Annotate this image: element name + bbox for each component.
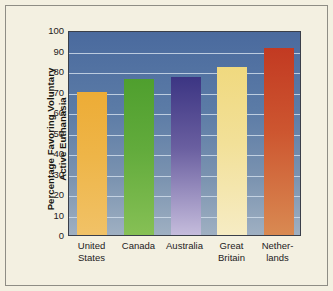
y-tick-label: 80 [38,67,64,77]
y-tick-label: 30 [38,170,64,180]
x-tick-label: United States [68,240,115,264]
y-tick-label: 60 [38,108,64,118]
y-tick-label: 90 [38,47,64,57]
bar-canada [124,79,154,235]
bar-australia [171,77,201,235]
y-tick-label: 100 [38,26,64,36]
x-tick-label: Australia [161,240,208,252]
y-axis-ticks: 1009080706050403020100 [36,31,64,236]
bar-united-states [77,92,107,236]
x-tick-label: Great Britain [208,240,255,264]
y-tick-label: 10 [38,211,64,221]
x-axis-ticks: United StatesCanadaAustraliaGreat Britai… [68,240,301,280]
y-tick-label: 50 [38,129,64,139]
bar-netherlands [264,48,294,235]
y-tick-label: 0 [38,231,64,241]
y-tick-label: 20 [38,190,64,200]
y-axis-title: Percentage Favoring Voluntary Active Eut… [22,31,36,236]
y-tick-label: 70 [38,88,64,98]
bar-great-britain [217,67,247,235]
plot-area [68,31,301,236]
x-tick-label: Canada [115,240,162,252]
x-tick-label: Nether- lands [254,240,301,264]
y-tick-label: 40 [38,149,64,159]
chart-figure: Percentage Favoring Voluntary Active Eut… [0,0,333,291]
